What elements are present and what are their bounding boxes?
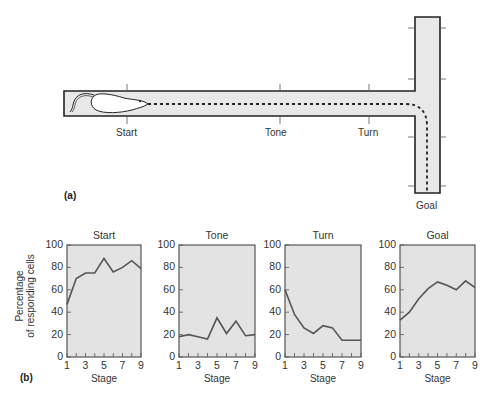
plot-area	[400, 245, 475, 357]
chart-plot-goal	[0, 0, 500, 404]
x-axis-label: Stage	[400, 373, 475, 384]
